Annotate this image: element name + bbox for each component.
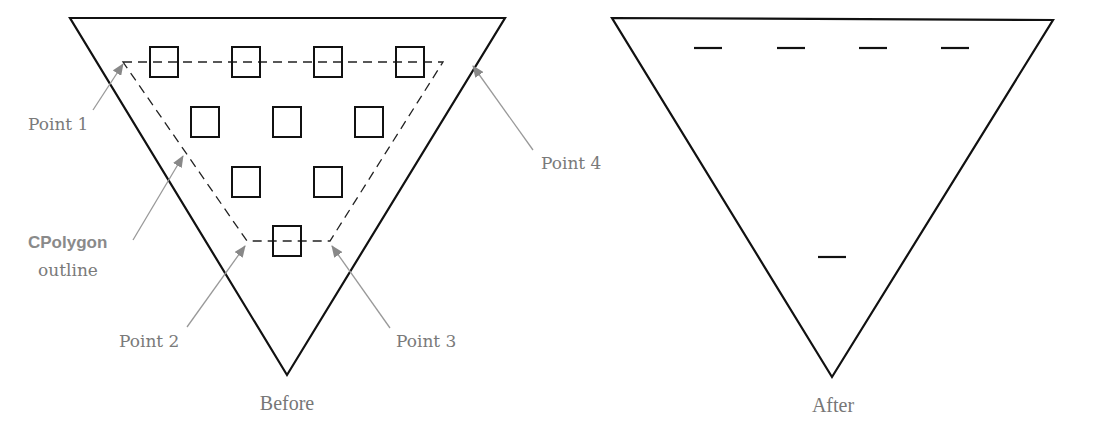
cpolygon-label: CPolygon — [28, 234, 107, 251]
point1-label: Point 1 — [28, 116, 88, 133]
cpolygon-outline — [123, 62, 443, 241]
object-square — [314, 167, 342, 197]
object-squares — [150, 47, 424, 256]
before-panel — [70, 18, 533, 375]
before-triangle — [70, 18, 505, 375]
point2-label: Point 2 — [119, 333, 179, 350]
point4-label: Point 4 — [541, 155, 601, 172]
object-square — [273, 107, 301, 137]
before-after-diagram — [0, 0, 1100, 441]
after-caption: After — [812, 395, 854, 415]
object-square — [191, 107, 219, 137]
collapsed-objects — [694, 48, 969, 257]
object-square — [232, 167, 260, 197]
point1-arrow — [93, 64, 123, 110]
outline-label: outline — [38, 262, 98, 279]
object-square — [355, 107, 383, 137]
after-triangle — [612, 18, 1053, 377]
before-caption: Before — [260, 393, 314, 413]
after-panel — [612, 18, 1053, 377]
point4-arrow — [473, 66, 533, 150]
cpolygon-arrow — [133, 156, 183, 240]
point3-label: Point 3 — [396, 333, 456, 350]
